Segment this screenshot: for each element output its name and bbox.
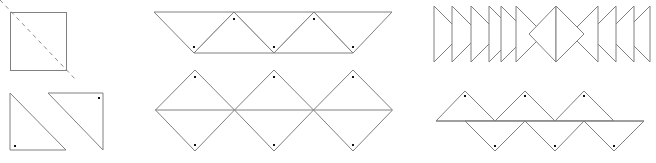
seam-dot-marker: [554, 145, 556, 147]
seam-dot-marker: [273, 144, 275, 146]
half-square-triangles: [10, 93, 103, 150]
seam-dot-marker: [194, 76, 196, 78]
seam-dot-marker: [494, 145, 496, 147]
seam-dot-marker: [352, 144, 354, 146]
center-diamond-triangle: [556, 6, 584, 62]
seam-dot-marker: [313, 18, 315, 20]
arrow-triangle-row: [434, 6, 650, 62]
seam-dot-marker: [233, 18, 235, 20]
seam-dot-marker: [98, 97, 100, 99]
zigzag-triangle-row: [436, 91, 644, 151]
seam-dot-marker: [273, 46, 275, 48]
center-diamond-triangle: [529, 6, 556, 62]
seam-dot-marker: [352, 46, 354, 48]
seam-dot-marker: [352, 76, 354, 78]
seam-dot-marker: [194, 144, 196, 146]
diamond-row: [155, 70, 393, 151]
seam-dot-marker: [583, 95, 585, 97]
triangle-strip: [154, 12, 392, 53]
seam-dot-marker: [464, 95, 466, 97]
seam-dot-marker: [613, 145, 615, 147]
seam-dot-marker: [14, 145, 16, 147]
seam-dot-marker: [193, 46, 195, 48]
seam-dot-marker: [273, 76, 275, 78]
fabric-square: [11, 13, 67, 71]
square-with-cut-line: [0, 0, 77, 81]
patchwork-diagram: [0, 0, 656, 163]
seam-dot-marker: [524, 95, 526, 97]
